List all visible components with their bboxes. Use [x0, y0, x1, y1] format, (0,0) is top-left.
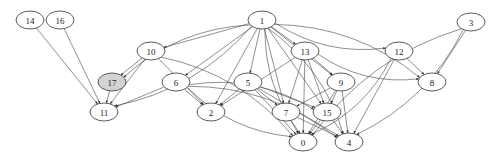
node-label: 5: [246, 78, 251, 88]
node-label: 9: [339, 78, 344, 88]
node-label: 10: [147, 47, 157, 57]
node-label: 1: [260, 16, 265, 26]
node-label: 3: [469, 18, 474, 28]
node-14[interactable]: 14: [16, 11, 44, 29]
node-label: 8: [430, 78, 435, 88]
node-1[interactable]: 1: [248, 11, 276, 29]
node-17[interactable]: 17: [98, 73, 126, 91]
edge-1-to-5: [250, 29, 260, 73]
edge-14-to-11: [36, 28, 97, 104]
edge-1-to-2: [216, 29, 258, 104]
node-label: 12: [395, 47, 404, 57]
edge-12-to-8: [407, 58, 424, 74]
node-11[interactable]: 11: [90, 103, 118, 121]
edge-12-to-4: [354, 60, 395, 134]
node-label: 0: [301, 138, 306, 148]
edge-1-to-10: [164, 24, 249, 48]
edge-7-to-0: [291, 121, 298, 134]
node-6[interactable]: 6: [162, 73, 190, 91]
edge-1-to-13: [271, 27, 295, 45]
node-label: 2: [209, 108, 214, 118]
edge-10-to-0: [161, 57, 293, 136]
edge-13-to-7: [289, 60, 303, 103]
node-0[interactable]: 0: [289, 133, 317, 151]
node-label: 16: [56, 16, 66, 26]
node-10[interactable]: 10: [137, 42, 165, 60]
edge-6-to-11: [116, 87, 165, 107]
node-12[interactable]: 12: [385, 42, 413, 60]
node-label: 4: [347, 138, 352, 148]
edge-16-to-11: [64, 29, 100, 104]
node-label: 15: [323, 108, 333, 118]
graph-canvas: 14161310131217659811271504: [0, 0, 499, 156]
edge-17-to-11: [106, 91, 109, 103]
node-8[interactable]: 8: [418, 73, 446, 91]
node-13[interactable]: 13: [291, 42, 319, 60]
edge-15-to-4: [333, 120, 343, 134]
node-label: 14: [26, 16, 36, 26]
edge-6-to-2: [184, 89, 202, 105]
node-15[interactable]: 15: [313, 103, 341, 121]
node-label: 13: [301, 47, 311, 57]
node-9[interactable]: 9: [327, 73, 355, 91]
node-3[interactable]: 3: [457, 13, 485, 31]
node-label: 11: [100, 108, 109, 118]
node-16[interactable]: 16: [46, 11, 74, 29]
node-7[interactable]: 7: [272, 103, 300, 121]
edge-1-to-11: [114, 26, 251, 106]
node-label: 17: [108, 78, 118, 88]
edge-3-to-8: [437, 30, 465, 73]
edge-13-to-9: [313, 58, 332, 75]
edge-13-to-0: [303, 60, 305, 133]
node-label: 6: [174, 78, 179, 88]
node-5[interactable]: 5: [234, 73, 262, 91]
edge-12-to-0: [311, 58, 391, 134]
node-2[interactable]: 2: [197, 103, 225, 121]
nodes-layer: 14161310131217659811271504: [16, 11, 485, 151]
node-label: 7: [284, 108, 289, 118]
edge-1-to-6: [185, 27, 252, 76]
node-4[interactable]: 4: [335, 133, 363, 151]
